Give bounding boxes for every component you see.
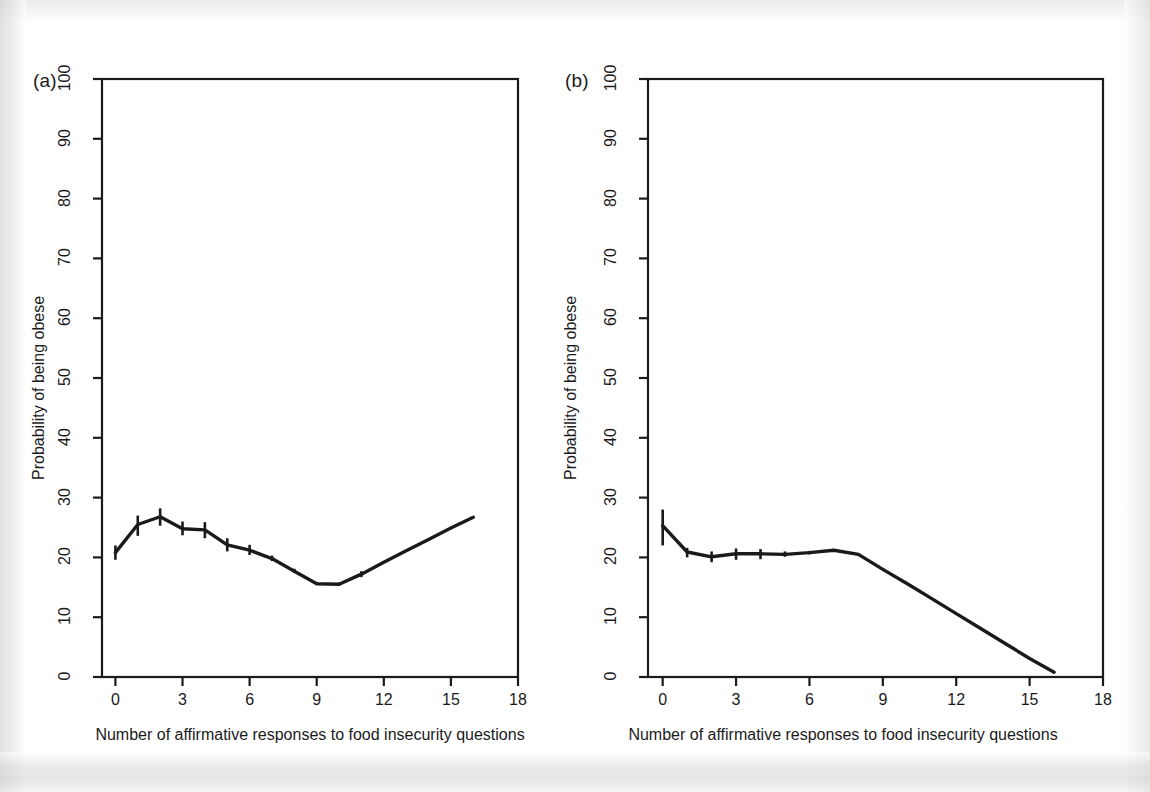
- y-tick-label: 10: [56, 598, 74, 634]
- y-tick-label: 60: [56, 299, 74, 335]
- y-tick-label: 60: [602, 299, 620, 335]
- y-tick-label: 70: [56, 239, 74, 275]
- y-tick-label: 0: [56, 658, 74, 694]
- x-tick-label: 18: [493, 691, 543, 709]
- figure-canvas: (a) Probability of being obese Number of…: [0, 0, 1150, 792]
- y-tick-label: 100: [602, 60, 620, 96]
- x-tick-label: 9: [292, 691, 342, 709]
- y-tick-label: 20: [602, 538, 620, 574]
- x-tick-label: 15: [426, 691, 476, 709]
- x-tick-label: 12: [359, 691, 409, 709]
- y-tick-label: 10: [602, 598, 620, 634]
- x-tick-label: 15: [1005, 691, 1055, 709]
- x-tick-label: 12: [931, 691, 981, 709]
- x-tick-label: 6: [225, 691, 275, 709]
- y-tick-label: 20: [56, 538, 74, 574]
- y-tick-label: 40: [602, 419, 620, 455]
- x-tick-label: 0: [638, 691, 688, 709]
- panel-b-plot: [575, 0, 1150, 792]
- x-tick-label: 3: [711, 691, 761, 709]
- x-tick-label: 18: [1078, 691, 1128, 709]
- y-tick-label: 30: [602, 479, 620, 515]
- y-tick-label: 50: [602, 359, 620, 395]
- y-tick-label: 50: [56, 359, 74, 395]
- panel-a-plot: [0, 0, 575, 792]
- y-tick-label: 0: [602, 658, 620, 694]
- x-tick-label: 0: [90, 691, 140, 709]
- x-tick-label: 9: [858, 691, 908, 709]
- y-tick-label: 90: [602, 120, 620, 156]
- y-tick-label: 40: [56, 419, 74, 455]
- y-tick-label: 30: [56, 479, 74, 515]
- panel-b: (b) Probability of being obese Number of…: [575, 0, 1150, 792]
- y-tick-label: 90: [56, 120, 74, 156]
- y-tick-label: 80: [56, 180, 74, 216]
- x-tick-label: 6: [784, 691, 834, 709]
- y-tick-label: 80: [602, 180, 620, 216]
- panel-a: (a) Probability of being obese Number of…: [0, 0, 575, 792]
- y-tick-label: 100: [56, 60, 74, 96]
- y-tick-label: 70: [602, 239, 620, 275]
- x-tick-label: 3: [158, 691, 208, 709]
